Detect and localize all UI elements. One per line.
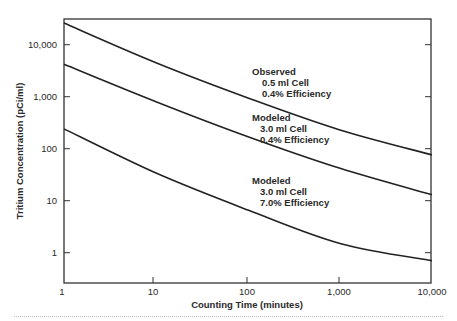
x-ticks bbox=[153, 277, 339, 283]
annotation-observed: Observed 0.5 ml Cell 0.4% Efficiency bbox=[252, 66, 332, 99]
plot-frame bbox=[64, 19, 431, 283]
annotation-modeled-70: Modeled 3.0 ml Cell 7.0% Efficiency bbox=[252, 175, 330, 208]
x-tick-label-1000: 1,000 bbox=[327, 286, 351, 297]
x-tick-label-100: 100 bbox=[239, 286, 255, 297]
y-tick-labels: 10,000 1,000 100 10 1 bbox=[28, 39, 57, 258]
annotation-modeled-70-line1: Modeled bbox=[252, 175, 291, 186]
x-axis-title: Counting Time (minutes) bbox=[191, 299, 303, 310]
tritium-chart: 10,000 1,000 100 10 1 1 10 100 1,000 10,… bbox=[0, 0, 457, 321]
y-tick-label-100: 100 bbox=[41, 143, 57, 154]
annotation-modeled-04-line2: 3.0 ml Cell bbox=[260, 123, 307, 134]
annotation-observed-line3: 0.4% Efficiency bbox=[262, 88, 332, 99]
x-tick-labels: 1 10 100 1,000 10,000 bbox=[59, 286, 446, 297]
x-tick-label-10000: 10,000 bbox=[417, 286, 446, 297]
y-tick-label-10: 10 bbox=[46, 195, 57, 206]
annotation-modeled-70-line3: 7.0% Efficiency bbox=[260, 197, 330, 208]
y-tick-label-1000: 1,000 bbox=[33, 91, 57, 102]
annotation-modeled-70-line2: 3.0 ml Cell bbox=[260, 186, 307, 197]
series-line-2 bbox=[64, 129, 432, 261]
y-ticks bbox=[64, 45, 431, 253]
x-tick-label-10: 10 bbox=[148, 286, 159, 297]
annotation-observed-line2: 0.5 ml Cell bbox=[262, 77, 309, 88]
series-line-0 bbox=[64, 23, 432, 155]
figure-caption-clipped bbox=[0, 316, 457, 321]
series-line-1 bbox=[64, 64, 432, 195]
x-tick-label-1: 1 bbox=[59, 286, 64, 297]
y-tick-label-1: 1 bbox=[52, 247, 57, 258]
annotation-modeled-04-line3: 0.4% Efficiency bbox=[260, 134, 330, 145]
annotation-observed-line1: Observed bbox=[252, 66, 296, 77]
y-axis-title: Tritium Concentration (pCi/ml) bbox=[14, 83, 25, 220]
annotation-modeled-04-line1: Modeled bbox=[252, 112, 291, 123]
annotation-modeled-04: Modeled 3.0 ml Cell 0.4% Efficiency bbox=[252, 112, 330, 145]
y-tick-label-10000: 10,000 bbox=[28, 39, 57, 50]
series-lines bbox=[64, 23, 432, 261]
